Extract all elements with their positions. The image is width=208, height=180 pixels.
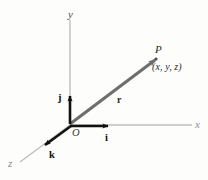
origin-label: O: [72, 128, 80, 139]
z-axis-label: z: [8, 158, 12, 169]
y-axis-label: y: [68, 9, 73, 20]
vector-r-label: r: [117, 95, 121, 105]
unit-vector-k: [45, 126, 71, 145]
unit-vector-i-label: i: [105, 133, 108, 144]
point-p-label: P: [155, 44, 162, 55]
x-axis-label: x: [195, 119, 200, 130]
point-p-coordinates: (x, y, z): [152, 62, 182, 72]
unit-vector-j-label: j: [58, 93, 62, 104]
diagram-canvas: [0, 0, 208, 180]
unit-vector-k-label: k: [49, 150, 55, 161]
position-vector-r: [70, 60, 155, 124]
vector-diagram: y x z O P (x, y, z) r j i k: [0, 0, 208, 180]
